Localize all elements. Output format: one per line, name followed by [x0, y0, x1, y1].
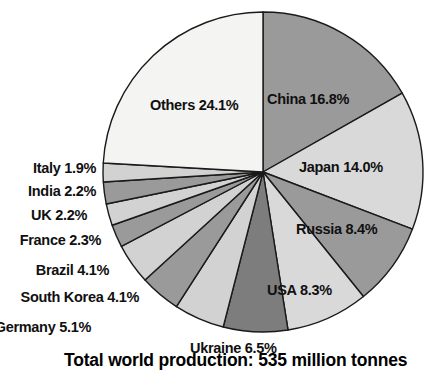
slice-label-italy: Italy 1.9%: [33, 161, 96, 176]
slice-label-china: China 16.8%: [267, 92, 349, 107]
slice-label-japan: Japan 14.0%: [299, 160, 383, 175]
slice-label-others: Others 24.1%: [150, 98, 238, 113]
slice-label-uk: UK 2.2%: [31, 208, 87, 223]
slice-label-brazil: Brazil 4.1%: [36, 263, 109, 278]
pie-slice-others: [103, 12, 263, 172]
slice-label-india: India 2.2%: [28, 184, 96, 199]
slice-label-russia: Russia 8.4%: [296, 222, 377, 237]
chart-caption: Total world production: 535 million tonn…: [64, 352, 407, 370]
slice-label-south-korea: South Korea 4.1%: [21, 290, 139, 305]
slice-label-usa: USA 8.3%: [267, 283, 332, 298]
slice-label-germany: Germany 5.1%: [0, 320, 91, 335]
pie-chart-figure: China 16.8% Japan 14.0% Russia 8.4% USA …: [0, 0, 439, 374]
slice-label-france: France 2.3%: [20, 233, 101, 248]
